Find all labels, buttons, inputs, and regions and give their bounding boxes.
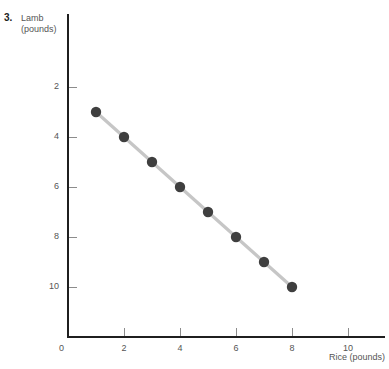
x-axis-tick <box>124 328 125 336</box>
y-axis-tick <box>69 187 77 188</box>
axis-origin-label: 0 <box>59 343 64 353</box>
data-point <box>175 182 185 192</box>
x-axis-line <box>67 336 385 338</box>
y-axis-tick-label: 2 <box>33 81 59 91</box>
x-axis-tick <box>236 328 237 336</box>
y-axis-tick <box>69 237 77 238</box>
series-markers <box>91 107 297 292</box>
series-line <box>96 112 292 287</box>
x-axis-tick <box>292 328 293 336</box>
x-axis-tick-label: 4 <box>168 343 192 353</box>
y-axis-tick-label: 4 <box>33 131 59 141</box>
y-axis-tick-label: 6 <box>33 181 59 191</box>
x-axis-tick-label: 2 <box>112 343 136 353</box>
data-point <box>259 257 269 267</box>
data-point <box>119 132 129 142</box>
x-axis-tick <box>180 328 181 336</box>
y-axis-tick-label: 10 <box>33 281 59 291</box>
x-axis-tick <box>348 328 349 336</box>
data-point <box>203 207 213 217</box>
y-axis-tick <box>69 137 77 138</box>
data-point <box>91 107 101 117</box>
data-point <box>147 157 157 167</box>
y-axis-tick <box>69 87 77 88</box>
y-axis-line <box>67 14 69 338</box>
plot-area: 0 108642 246810 <box>0 0 389 369</box>
x-axis-tick-label: 6 <box>224 343 248 353</box>
chart-figure: 3. Lamb (pounds) Rice (pounds) 0 108642 … <box>0 0 389 369</box>
data-point <box>231 232 241 242</box>
x-axis-tick-label: 10 <box>336 343 360 353</box>
x-axis-tick-label: 8 <box>280 343 304 353</box>
y-axis-tick <box>69 287 77 288</box>
data-point <box>287 282 297 292</box>
y-axis-tick-label: 8 <box>33 231 59 241</box>
